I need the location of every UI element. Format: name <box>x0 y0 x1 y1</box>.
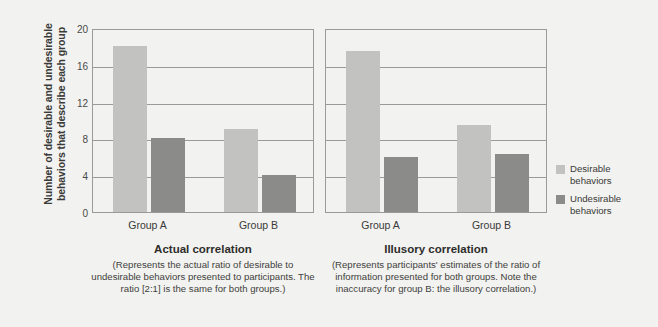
category-label-actual-group-a: Group A <box>103 219 193 231</box>
illusory-correlation-figure: Number of desirable and undesirable beha… <box>0 0 658 327</box>
y-axis-tick-16: 16 <box>66 60 88 71</box>
legend-label-undesirable: Undesirablebehaviors <box>570 193 621 216</box>
caption-note: (Represents the actual ratio of desirabl… <box>89 259 317 294</box>
legend-item-desirable: Desirablebehaviors <box>556 163 652 186</box>
bar-illusory-group-a-undesirable <box>384 157 418 212</box>
y-axis-tick-8: 8 <box>66 134 88 145</box>
y-axis-tick-12: 12 <box>66 97 88 108</box>
y-axis-tick-4: 4 <box>66 171 88 182</box>
bar-actual-group-b-undesirable <box>262 175 296 212</box>
bar-illusory-group-a-desirable <box>346 51 380 212</box>
chart-legend: Desirablebehaviors Undesirablebehaviors <box>556 163 652 223</box>
y-axis-tick-0: 0 <box>66 208 88 219</box>
bar-actual-group-b-desirable <box>224 129 258 212</box>
caption-illusory-correlation: Illusory correlation (Represents partici… <box>322 243 550 294</box>
category-label-actual-group-b: Group B <box>214 219 304 231</box>
caption-title: Actual correlation <box>89 243 317 255</box>
legend-label-desirable: Desirablebehaviors <box>570 163 612 186</box>
plot-panel-illusory-correlation <box>325 29 547 213</box>
bar-illusory-group-b-desirable <box>457 125 491 212</box>
legend-swatch-undesirable-icon <box>556 195 565 204</box>
plot-panel-actual-correlation <box>92 29 314 213</box>
category-label-illusory-group-b: Group B <box>447 219 537 231</box>
y-axis-tick-labels: 048121620 <box>62 0 88 327</box>
bar-actual-group-a-undesirable <box>151 138 185 212</box>
legend-swatch-desirable-icon <box>556 165 565 174</box>
category-label-illusory-group-a: Group A <box>336 219 426 231</box>
bar-illusory-group-b-undesirable <box>495 154 529 212</box>
legend-item-undesirable: Undesirablebehaviors <box>556 193 652 216</box>
caption-actual-correlation: Actual correlation (Represents the actua… <box>89 243 317 294</box>
y-axis-tick-20: 20 <box>66 24 88 35</box>
bar-actual-group-a-desirable <box>113 46 147 212</box>
caption-title: Illusory correlation <box>322 243 550 255</box>
caption-note: (Represents participants' estimates of t… <box>322 259 550 294</box>
